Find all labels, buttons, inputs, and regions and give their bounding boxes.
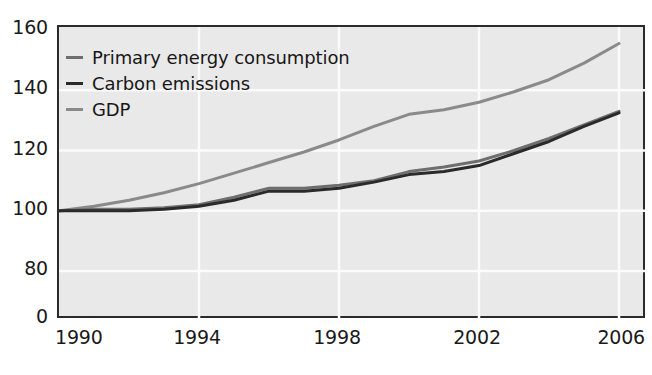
x-axis-tick-label: 1994 (173, 326, 221, 348)
x-axis-tick-label: 1990 (55, 326, 103, 348)
legend-item-gdp: GDP (66, 98, 350, 121)
line-chart: 160140120100800 19901994199820022006 Pri… (0, 0, 652, 375)
legend-item-carbon-emissions: Carbon emissions (66, 72, 350, 95)
x-axis-tick-label: 2006 (597, 326, 645, 348)
legend-item-label: Carbon emissions (92, 74, 250, 94)
chart-legend: Primary energy consumption Carbon emissi… (66, 46, 350, 121)
legend-item-label: Primary energy consumption (92, 48, 350, 68)
legend-item-label: GDP (92, 100, 130, 120)
x-axis-tick-label: 1998 (313, 326, 361, 348)
legend-item-primary-energy-consumption: Primary energy consumption (66, 46, 350, 69)
x-axis-tick-label: 2002 (453, 326, 501, 348)
legend-swatch-icon (66, 82, 83, 85)
legend-swatch-icon (66, 108, 83, 111)
legend-swatch-icon (66, 56, 83, 59)
